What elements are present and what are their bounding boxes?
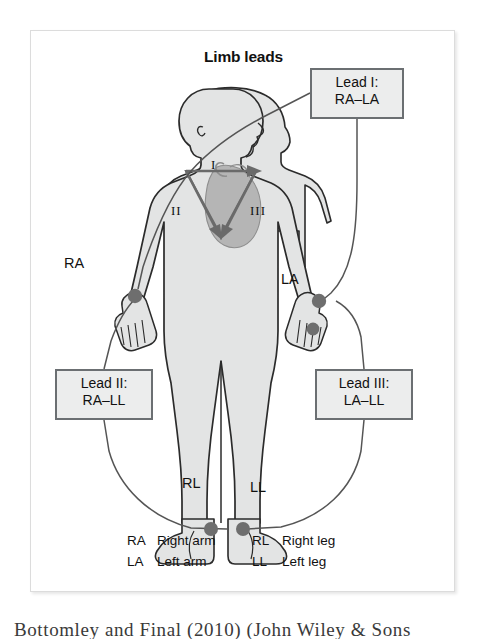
callout-lead-1-line2: RA–LA (312, 91, 402, 108)
callout-lead-2-line2: RA–LL (57, 392, 151, 409)
wire-lead3-to-la (336, 301, 364, 369)
callout-lead-1[interactable]: Lead I: RA–LA (310, 68, 404, 119)
callout-lead-2[interactable]: Lead II: RA–LL (55, 369, 153, 420)
electrode-label-ll: LL (250, 479, 266, 495)
legend-col-right: LL Left leg (252, 552, 377, 573)
electrode-label-ra: RA (64, 255, 84, 271)
legend-col-right: RL Right leg (252, 531, 377, 552)
legend-abbr: RL (252, 531, 282, 552)
electrode-dot-ra[interactable] (128, 289, 142, 303)
source-caption: Bottomley and Final (2010) (John Wiley &… (14, 619, 474, 639)
legend-row: LA Left arm LL Left leg (127, 552, 377, 573)
triangle-numeral-iii: III (250, 203, 266, 219)
legend-term: Right arm (157, 531, 216, 552)
callout-lead-3-line1: Lead III: (317, 375, 411, 392)
legend-abbr: RA (127, 531, 157, 552)
callout-lead-3-line2: LA–LL (317, 392, 411, 409)
triangle-numeral-ii: II (171, 203, 182, 219)
figure-panel: Limb leads Lead I: RA–LA Lead II: RA–LL … (30, 30, 455, 592)
legend-abbr: LA (127, 552, 157, 573)
page-title: Limb leads (31, 48, 456, 66)
legend-term: Left arm (157, 552, 207, 573)
electrode-dot-la[interactable] (312, 294, 326, 308)
callout-lead-2-line1: Lead II: (57, 375, 151, 392)
human-body-figure (115, 88, 331, 564)
abbreviation-legend: RA Right arm RL Right leg LA Left arm LL… (127, 531, 377, 573)
electrode-label-rl: RL (182, 475, 201, 491)
legend-col-left: RA Right arm (127, 531, 252, 552)
triangle-numeral-i: I (211, 157, 216, 173)
legend-row: RA Right arm RL Right leg (127, 531, 377, 552)
legend-term: Left leg (282, 552, 326, 573)
callout-lead-3[interactable]: Lead III: LA–LL (315, 369, 413, 420)
callout-lead-1-line1: Lead I: (312, 74, 402, 91)
legend-term: Right leg (282, 531, 335, 552)
legend-abbr: LL (252, 552, 282, 573)
legend-col-left: LA Left arm (127, 552, 252, 573)
electrode-label-la: LA (281, 271, 299, 287)
electrode-dot-la-secondary[interactable] (307, 323, 320, 336)
